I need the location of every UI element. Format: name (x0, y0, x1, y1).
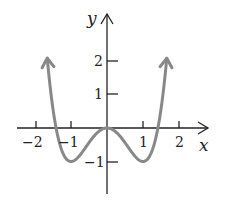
plot-area (0, 0, 228, 200)
chart: y x −2 −1 1 2 2 1 −1 (0, 0, 228, 200)
x-tick-label: −1 (58, 135, 79, 149)
x-tick-label: 1 (139, 135, 148, 149)
y-tick-label: 2 (94, 54, 103, 68)
x-tick-label: 2 (175, 135, 184, 149)
x-axis-label: x (199, 137, 209, 154)
y-tick-label: −1 (84, 155, 105, 169)
x-tick-label: −2 (22, 135, 43, 149)
y-axis-label: y (87, 10, 97, 27)
y-ticks (107, 61, 118, 162)
y-tick-label: 1 (94, 87, 103, 101)
